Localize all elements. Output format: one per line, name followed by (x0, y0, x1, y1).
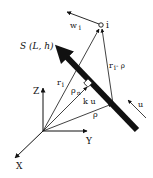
x-axis-label: X (16, 161, 23, 171)
z-axis-label: Z (33, 86, 39, 96)
point-i (99, 23, 103, 27)
r2-suffix: - ρ (116, 62, 125, 70)
rho-n-sub: n (77, 89, 81, 96)
r-label: r (57, 78, 61, 87)
w-label: w (70, 21, 77, 30)
r-i-minus-rho-label: ri- ρ (109, 61, 125, 72)
ku-label: k u (83, 97, 96, 106)
r2-label: r (109, 61, 113, 70)
vector-diagram: Z Y X i wi u S (L, h) ri ri- ρ ρn k u ρ (0, 0, 153, 178)
segment-s-label: S (L, h) (20, 41, 54, 51)
rho-label: ρ (93, 110, 98, 119)
coordinate-axes: Z Y X (15, 86, 93, 171)
rho-n-label: ρn (71, 86, 81, 96)
rho-vector (43, 104, 112, 131)
rho-n-main: ρ (71, 86, 76, 95)
u-direction-arrow (128, 100, 146, 118)
y-axis-label: Y (85, 136, 93, 146)
x-axis (15, 131, 43, 158)
r-sub: i (62, 81, 65, 89)
r-i-label: ri (57, 78, 65, 89)
u-label: u (138, 100, 143, 109)
point-i-label: i (106, 20, 109, 30)
w-sub: i (79, 24, 82, 32)
w-i-label: wi (70, 21, 82, 32)
